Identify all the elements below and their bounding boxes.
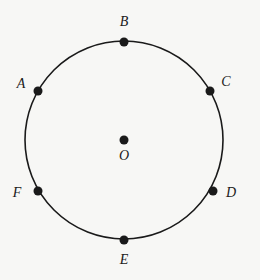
label-A: A xyxy=(16,76,26,91)
label-center-O: O xyxy=(119,148,129,163)
label-E: E xyxy=(119,252,129,267)
diagram-canvas: ABCDEFO xyxy=(0,0,260,280)
point-B xyxy=(120,38,129,47)
label-F: F xyxy=(12,185,22,200)
point-C xyxy=(206,87,215,96)
label-C: C xyxy=(221,74,231,89)
label-B: B xyxy=(120,14,129,29)
point-A xyxy=(34,87,43,96)
label-D: D xyxy=(225,185,236,200)
point-D xyxy=(209,187,218,196)
point-F xyxy=(34,187,43,196)
circle-diagram: ABCDEFO xyxy=(0,0,260,280)
center-point-O xyxy=(120,136,129,145)
point-E xyxy=(120,236,129,245)
